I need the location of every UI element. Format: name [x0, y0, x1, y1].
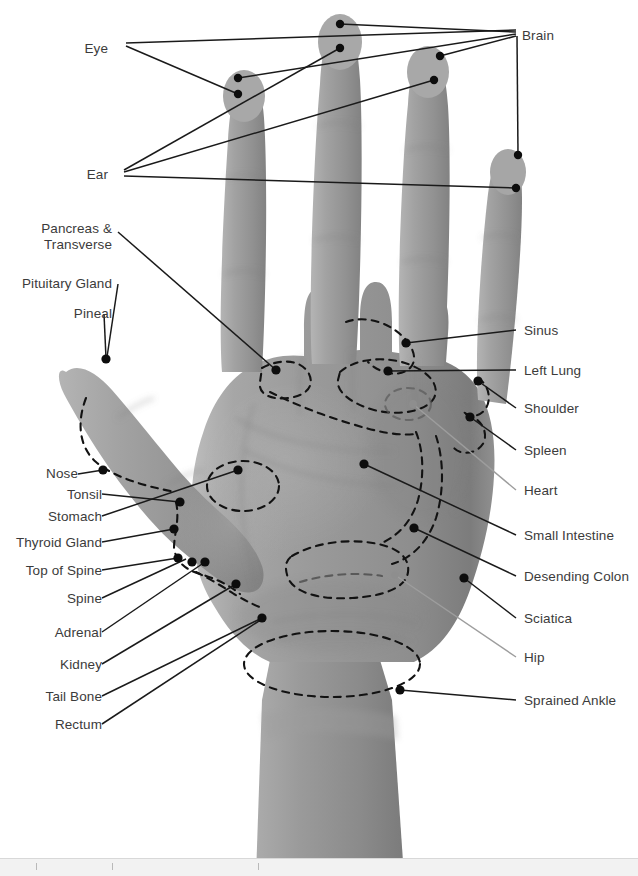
label-sciatica[interactable]: Sciatica	[524, 611, 572, 626]
dot-tonsil	[175, 497, 184, 506]
dot-ear-ring	[430, 76, 438, 84]
label-tonsil[interactable]: Tonsil	[10, 487, 102, 502]
dot-hip	[391, 571, 398, 578]
label-desending-colon[interactable]: Desending Colon	[524, 569, 629, 584]
label-adrenal[interactable]: Adrenal	[2, 625, 102, 640]
label-kidney[interactable]: Kidney	[2, 657, 102, 672]
dot-brain-middle	[336, 20, 344, 28]
dot-eye	[234, 90, 242, 98]
label-line-1: Pancreas &	[41, 221, 112, 236]
label-left-lung[interactable]: Left Lung	[524, 363, 581, 378]
label-brain[interactable]: Brain	[522, 28, 554, 43]
label-pancreas-transverse[interactable]: Pancreas & Transverse	[0, 221, 112, 252]
label-rectum[interactable]: Rectum	[2, 717, 102, 732]
footer-bar	[0, 858, 638, 876]
label-sinus[interactable]: Sinus	[524, 323, 558, 338]
label-line-2: Transverse	[44, 237, 112, 252]
label-pituitary-gland[interactable]: Pituitary Gland	[0, 276, 112, 291]
dot-stomach	[233, 465, 242, 474]
label-top-of-spine[interactable]: Top of Spine	[2, 563, 102, 578]
footer-tick	[36, 863, 37, 870]
label-shoulder[interactable]: Shoulder	[524, 401, 579, 416]
label-tail-bone[interactable]: Tail Bone	[2, 689, 102, 704]
dot-top-of-spine	[173, 553, 182, 562]
dot-brain-ring	[436, 52, 444, 60]
dot-thyroid	[169, 524, 178, 533]
reflexology-chart: Eye Brain Ear Pancreas & Transverse Pitu…	[0, 0, 638, 876]
dot-spleen	[465, 412, 474, 421]
dot-tail-bone	[257, 613, 266, 622]
dot-brain-index	[234, 74, 242, 82]
dot-nose	[98, 465, 107, 474]
label-ear[interactable]: Ear	[48, 167, 108, 182]
dot-brain-little	[514, 151, 522, 159]
footer-tick	[112, 863, 113, 870]
label-sprained-ankle[interactable]: Sprained Ankle	[524, 693, 616, 708]
dot-ear-middle	[336, 44, 344, 52]
dot-heart	[409, 400, 417, 408]
leader-left-lung	[388, 370, 516, 371]
hand-diagram-art	[0, 0, 638, 876]
label-stomach[interactable]: Stomach	[2, 509, 102, 524]
label-thyroid-gland[interactable]: Thyroid Gland	[2, 535, 102, 550]
dot-spine	[187, 557, 196, 566]
dot-shoulder	[473, 376, 482, 385]
label-spine[interactable]: Spine	[2, 591, 102, 606]
dot-adrenal	[200, 557, 209, 566]
footer-tick	[258, 863, 259, 870]
dot-pineal	[101, 354, 110, 363]
dot-desending-colon	[409, 523, 418, 532]
label-small-intestine[interactable]: Small Intestine	[524, 528, 614, 543]
label-pineal[interactable]: Pineal	[12, 306, 112, 321]
dot-sinus	[401, 338, 410, 347]
label-spleen[interactable]: Spleen	[524, 443, 567, 458]
dot-pancreas	[271, 365, 280, 374]
label-nose[interactable]: Nose	[10, 466, 78, 481]
dot-small-intestine	[359, 459, 368, 468]
dot-sprained-ankle	[395, 685, 404, 694]
dot-kidney	[231, 579, 240, 588]
label-eye[interactable]: Eye	[48, 41, 108, 56]
dot-sciatica	[459, 573, 468, 582]
dot-left-lung	[383, 366, 392, 375]
label-hip[interactable]: Hip	[524, 650, 545, 665]
leader-brain-d	[517, 36, 518, 155]
label-heart[interactable]: Heart	[524, 483, 558, 498]
dot-ear-little	[512, 184, 520, 192]
